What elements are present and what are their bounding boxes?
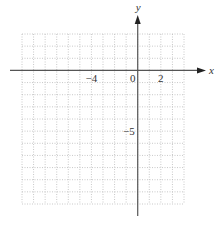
y-axis-label: y bbox=[135, 1, 141, 13]
x-tick-label: −4 bbox=[86, 72, 98, 84]
y-axis-arrow-icon bbox=[135, 15, 141, 24]
x-tick-label: 2 bbox=[158, 72, 164, 84]
y-tick-label: −5 bbox=[123, 125, 135, 137]
coordinate-plane: xy−402−5 bbox=[0, 0, 218, 226]
x-axis-arrow-icon bbox=[197, 67, 206, 73]
x-axis-label: x bbox=[208, 64, 214, 76]
x-tick-label: 0 bbox=[130, 72, 136, 84]
